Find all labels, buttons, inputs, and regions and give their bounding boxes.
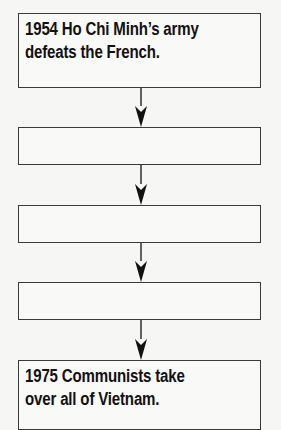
blank-event-box-1[interactable]: [18, 127, 261, 165]
blank-event-text: [19, 206, 226, 210]
blank-event-text: [19, 283, 226, 287]
event-box-1975: 1975 Communists take over all of Vietnam…: [18, 360, 261, 430]
blank-event-box-2[interactable]: [18, 205, 261, 243]
down-arrow-icon: [131, 165, 151, 205]
event-box-1954: 1954 Ho Chi Minh’s army defeats the Fren…: [18, 13, 261, 88]
down-arrow-icon: [131, 320, 151, 360]
event-text-1975: 1975 Communists take over all of Vietnam…: [19, 361, 226, 411]
event-text-line: defeats the French.: [25, 41, 226, 64]
event-text-line: 1975 Communists take: [25, 365, 226, 388]
down-arrow-icon: [131, 243, 151, 282]
event-text-1954: 1954 Ho Chi Minh’s army defeats the Fren…: [19, 14, 226, 64]
event-text-line: over all of Vietnam.: [25, 388, 226, 411]
blank-event-text: [19, 128, 226, 132]
event-text-line: 1954 Ho Chi Minh’s army: [25, 18, 226, 41]
blank-event-box-3[interactable]: [18, 282, 261, 320]
down-arrow-icon: [131, 88, 151, 127]
